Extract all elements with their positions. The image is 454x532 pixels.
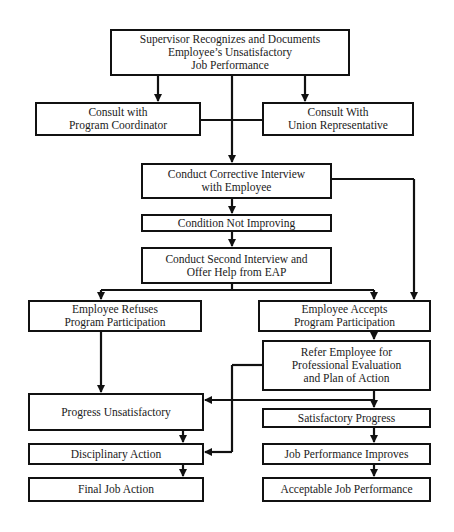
node-text: Final Job Action xyxy=(78,483,154,496)
node-final-job-action: Final Job Action xyxy=(28,477,204,502)
node-second-interview: Conduct Second Interview and Offer Help … xyxy=(141,247,332,284)
node-supervisor-recognizes: Supervisor Recognizes and Documents Empl… xyxy=(110,29,350,76)
node-text: Professional Evaluation xyxy=(292,359,402,372)
node-text: Refer Employee for xyxy=(301,346,392,359)
node-job-performance-improves: Job Performance Improves xyxy=(262,443,431,465)
node-text: Program Coordinator xyxy=(69,119,167,132)
node-text: Job Performance Improves xyxy=(285,448,409,461)
node-text: Employee Refuses xyxy=(72,303,158,316)
node-text: Supervisor Recognizes and Documents xyxy=(140,33,320,46)
node-text: Offer Help from EAP xyxy=(187,266,287,279)
node-text: and Plan of Action xyxy=(304,372,390,385)
node-refer-employee: Refer Employee for Professional Evaluati… xyxy=(262,340,431,391)
node-text: Condition Not Improving xyxy=(178,217,296,230)
node-text: Conduct Corrective Interview xyxy=(168,168,305,181)
node-progress-unsatisfactory: Progress Unsatisfactory xyxy=(28,393,204,431)
node-text: Union Representative xyxy=(288,119,388,132)
node-text: Program Participation xyxy=(64,316,165,329)
node-text: Employee Accepts xyxy=(302,303,388,316)
node-employee-refuses: Employee Refuses Program Participation xyxy=(28,300,202,332)
node-employee-accepts: Employee Accepts Program Participation xyxy=(258,300,431,332)
node-text: Program Participation xyxy=(294,316,395,329)
node-text: Employee’s Unsatisfactory xyxy=(168,46,292,59)
node-text: Conduct Second Interview and xyxy=(165,253,307,266)
node-acceptable-job-performance: Acceptable Job Performance xyxy=(262,477,431,502)
node-consult-program-coordinator: Consult with Program Coordinator xyxy=(35,102,201,136)
node-consult-union-representative: Consult With Union Representative xyxy=(262,102,414,136)
node-satisfactory-progress: Satisfactory Progress xyxy=(262,408,431,428)
node-text: with Employee xyxy=(202,181,272,194)
node-text: Job Performance xyxy=(191,59,269,72)
node-text: Acceptable Job Performance xyxy=(280,483,412,496)
node-condition-not-improving: Condition Not Improving xyxy=(141,214,332,232)
node-disciplinary-action: Disciplinary Action xyxy=(28,443,204,465)
node-text: Satisfactory Progress xyxy=(298,412,395,425)
node-corrective-interview: Conduct Corrective Interview with Employ… xyxy=(141,163,332,199)
node-text: Progress Unsatisfactory xyxy=(61,406,171,419)
node-text: Consult With xyxy=(308,106,369,119)
node-text: Consult with xyxy=(88,106,147,119)
node-text: Disciplinary Action xyxy=(71,448,161,461)
